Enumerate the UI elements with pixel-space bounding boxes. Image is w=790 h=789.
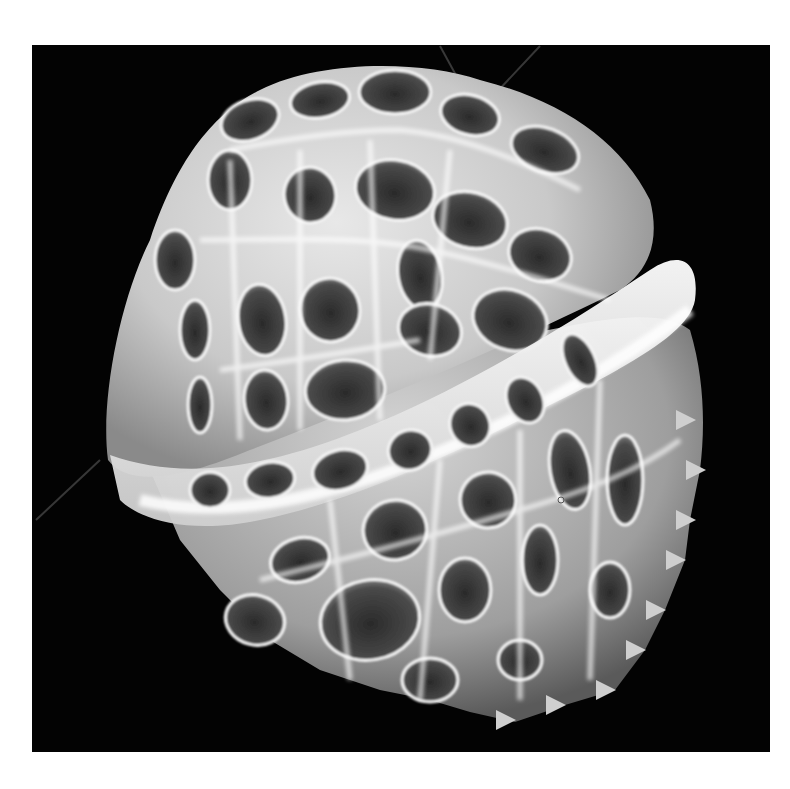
lumen-cell [180, 300, 210, 360]
micrograph-frame [32, 45, 770, 752]
lumen-cell [522, 525, 558, 595]
lumen-cell [190, 472, 230, 508]
lumen-cell [402, 658, 458, 702]
lumen-cell [359, 70, 431, 114]
dinoflagellate-specimen [32, 45, 770, 752]
lumen-cell [439, 558, 491, 622]
lumen-cell [188, 377, 212, 433]
lumen-cell [155, 230, 195, 290]
